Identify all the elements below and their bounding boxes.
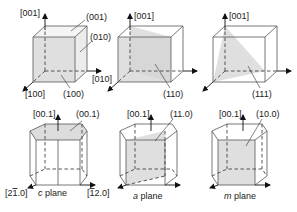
label-axis-001: [001] bbox=[134, 11, 154, 21]
label-axis-12-0: [12.0] bbox=[87, 188, 110, 198]
caption-c-plane: c plane bbox=[38, 188, 67, 198]
caption-m-plane: m plane bbox=[224, 191, 256, 201]
label-plane-10-0: (10.0) bbox=[256, 109, 280, 119]
plane-10-0-face bbox=[218, 140, 255, 185]
label-axis-00-1: [00.1] bbox=[33, 109, 56, 119]
cube-001-group: [001] (001) (010) [010] [100] (100) bbox=[20, 8, 112, 99]
label-plane-11-0: (11.0) bbox=[170, 109, 193, 119]
hex-a-group: [00.1] (11.0) a plane bbox=[118, 109, 193, 201]
plane-100-face bbox=[33, 37, 75, 82]
plane-00-1-face bbox=[30, 124, 87, 140]
cube-110-group: [001] (110) bbox=[108, 11, 197, 99]
label-plane-010: (010) bbox=[90, 32, 111, 42]
crystal-planes-diagram: [001] (001) (010) [010] [100] (100) [001… bbox=[0, 0, 297, 212]
label-axis-00-1: [00.1] bbox=[127, 109, 150, 119]
axis-100-arrow bbox=[203, 82, 213, 91]
label-axis-010: [010] bbox=[92, 74, 112, 84]
hex-m-group: [00.1] (10.0) m plane bbox=[210, 109, 280, 201]
cube-110-front-face bbox=[118, 37, 171, 82]
label-axis-001: [001] bbox=[229, 11, 249, 21]
label-axis-100: [100] bbox=[25, 89, 45, 99]
label-axis-2-10: [21.0] bbox=[5, 188, 28, 198]
label-plane-001: (001) bbox=[86, 12, 107, 22]
caption-a-plane: a plane bbox=[133, 191, 163, 201]
label-axis-00-1: [00.1] bbox=[219, 109, 242, 119]
axis-2-10-arrow bbox=[28, 185, 36, 188]
cube-111-group: [001] (111) bbox=[203, 11, 291, 99]
plane-11-0-face bbox=[126, 131, 165, 185]
label-plane-100: (100) bbox=[63, 89, 84, 99]
axis-a1-arrow bbox=[118, 185, 126, 188]
plane-111-face bbox=[213, 26, 265, 82]
hex-c-group: [00.1] (00.1) [21.0] [12.0] c plane bbox=[5, 109, 110, 198]
label-plane-110: (110) bbox=[163, 89, 183, 99]
label-plane-00-1: (00.1) bbox=[76, 109, 100, 119]
label-plane-111: (111) bbox=[252, 89, 272, 99]
label-axis-001: [001] bbox=[20, 8, 40, 18]
axis-a1-arrow bbox=[210, 185, 218, 188]
